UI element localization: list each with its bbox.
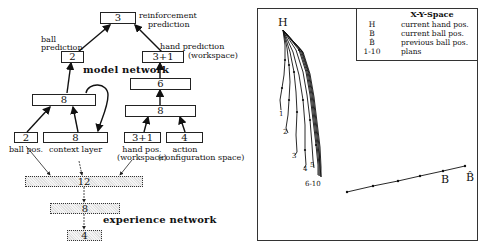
legend-description: current hand pos. [401,20,469,29]
legend-row: H current hand pos. [357,20,479,29]
label-plan-4: 4 [303,166,307,173]
legend-symbol: B [361,29,383,38]
label-plan-3: 3 [292,153,296,160]
legend-description: plans [401,47,421,56]
label-plan-5: 5 [310,162,314,169]
legend-row: B current ball pos. [357,29,479,38]
label-plan-6-10: 6-10 [305,181,321,188]
label-plan-2: 2 [283,129,287,136]
legend-symbol: H [361,20,383,29]
label-plan-1: 1 [279,111,283,118]
legend-title: X-Y-Space [387,10,477,19]
label-prev-ball: B̂ [466,172,474,183]
legend-description: previous ball pos. [401,38,468,47]
legend-row: 1-10 plans [357,47,479,56]
plot-legend: X-Y-Space H current hand pos. B current … [356,8,478,61]
legend-description: current ball pos. [401,29,464,38]
legend-symbol: 1-10 [361,47,383,56]
legend-row: B̂ previous ball pos. [357,38,479,47]
label-hand: H [278,17,288,28]
legend-symbol: B̂ [361,38,383,47]
label-ball: B [441,174,449,185]
